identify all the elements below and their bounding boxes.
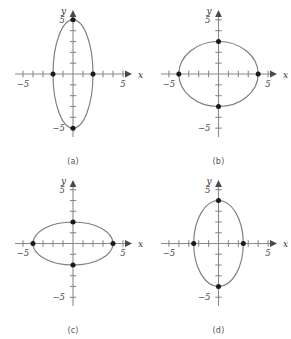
y-tick-label-neg5: −5 <box>198 123 211 133</box>
x-tick-label-5: 5 <box>265 79 270 89</box>
ellipse-vertex-point <box>71 263 76 268</box>
ellipse-vertex-point <box>241 241 246 246</box>
panel-b-svg: −555−5xy <box>146 0 291 170</box>
y-tick-label-neg5: −5 <box>52 123 65 133</box>
ellipse-vertex-point <box>176 72 181 77</box>
ellipse-vertex-point <box>216 104 221 109</box>
x-tick-label-5: 5 <box>120 248 125 258</box>
panel-d-svg: −555−5xy <box>146 170 291 339</box>
panel-b-plot: −555−5xy <box>146 0 291 170</box>
panel-b: −555−5xy (b) <box>146 0 291 170</box>
x-axis-arrow-icon <box>270 71 277 78</box>
y-tick-label-5: 5 <box>205 15 210 25</box>
x-axis-label: x <box>283 239 288 249</box>
ellipse-vertex-point <box>191 241 196 246</box>
y-axis-arrow-icon <box>215 10 222 17</box>
panel-a-svg: −555−5xy <box>0 0 146 170</box>
panel-c-svg: −555−5xy <box>0 170 146 339</box>
y-tick-label-neg5: −5 <box>52 292 65 302</box>
y-axis-arrow-icon <box>70 10 77 17</box>
ellipse-vertex-point <box>216 39 221 44</box>
panel-b-caption: (b) <box>146 157 291 166</box>
x-axis-arrow-icon <box>125 71 132 78</box>
ellipse-figure-grid: −555−5xy (a) −555−5xy (b) −555−5xy (c) −… <box>0 0 291 339</box>
ellipse-vertex-point <box>31 241 36 246</box>
ellipse-vertex-point <box>71 220 76 225</box>
panel-d-caption: (d) <box>146 326 291 335</box>
x-tick-label-5: 5 <box>120 79 125 89</box>
y-axis-arrow-icon <box>70 180 77 187</box>
panel-c-plot: −555−5xy <box>0 170 146 339</box>
x-tick-label-5: 5 <box>265 248 270 258</box>
ellipse-vertex-point <box>91 72 96 77</box>
ellipse-vertex-point <box>71 17 76 22</box>
y-axis-label: y <box>205 6 212 16</box>
y-tick-label-neg5: −5 <box>198 292 211 302</box>
panel-a-caption: (a) <box>0 157 146 166</box>
x-tick-label-neg5: −5 <box>17 79 30 89</box>
panel-c-caption: (c) <box>0 326 146 335</box>
y-axis-arrow-icon <box>215 180 222 187</box>
panel-c: −555−5xy (c) <box>0 170 146 339</box>
ellipse-vertex-point <box>216 198 221 203</box>
panel-d: −555−5xy (d) <box>146 170 291 339</box>
y-tick-label-5: 5 <box>205 185 210 195</box>
x-axis-label: x <box>138 70 143 80</box>
y-tick-label-5: 5 <box>60 185 65 195</box>
panel-a: −555−5xy (a) <box>0 0 146 170</box>
ellipse-vertex-point <box>111 241 116 246</box>
x-axis-arrow-icon <box>270 240 277 247</box>
x-tick-label-neg5: −5 <box>163 79 176 89</box>
ellipse-vertex-point <box>71 126 76 131</box>
ellipse-vertex-point <box>51 72 56 77</box>
x-tick-label-neg5: −5 <box>17 248 30 258</box>
y-axis-label: y <box>60 176 67 186</box>
x-axis-label: x <box>283 70 288 80</box>
ellipse-vertex-point <box>216 284 221 289</box>
panel-a-plot: −555−5xy <box>0 0 146 170</box>
x-axis-label: x <box>138 239 143 249</box>
x-tick-label-neg5: −5 <box>163 248 176 258</box>
panel-d-plot: −555−5xy <box>146 170 291 339</box>
y-axis-label: y <box>60 6 67 16</box>
y-tick-label-5: 5 <box>60 15 65 25</box>
ellipse-vertex-point <box>256 72 261 77</box>
y-axis-label: y <box>205 176 212 186</box>
x-axis-arrow-icon <box>125 240 132 247</box>
